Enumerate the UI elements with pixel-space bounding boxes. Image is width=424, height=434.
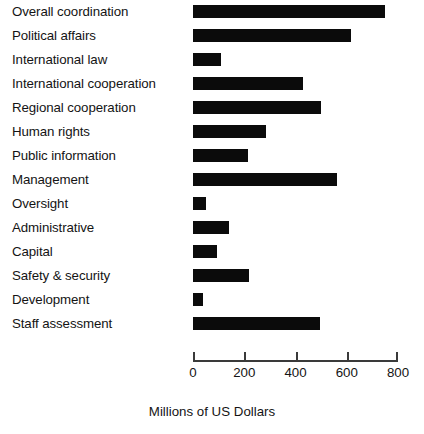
x-axis — [193, 352, 398, 363]
bar-category-label: Public information — [12, 144, 116, 168]
bar-category-label: Staff assessment — [12, 312, 112, 336]
chart-row: Human rights — [0, 120, 424, 144]
chart-row: Administrative — [0, 216, 424, 240]
bar-category-label: Regional cooperation — [12, 96, 136, 120]
chart-row: International cooperation — [0, 72, 424, 96]
chart-row: Capital — [0, 240, 424, 264]
x-axis-tick-label: 0 — [189, 364, 196, 381]
chart-row: Development — [0, 288, 424, 312]
chart-row: Political affairs — [0, 24, 424, 48]
bar-track — [193, 120, 398, 144]
x-axis-tick — [193, 352, 195, 362]
bar — [193, 317, 320, 330]
x-axis-tick — [244, 352, 246, 362]
chart-row: Overall coordination — [0, 0, 424, 24]
chart-rows: Overall coordinationPolitical affairsInt… — [0, 0, 424, 336]
bar-track — [193, 72, 398, 96]
x-axis-tick-label: 200 — [233, 364, 255, 381]
bar-track — [193, 264, 398, 288]
bar-category-label: Development — [12, 288, 89, 312]
bar — [193, 29, 351, 42]
bar-track — [193, 168, 398, 192]
bar-category-label: Administrative — [12, 216, 94, 240]
bar-track — [193, 96, 398, 120]
bar-track — [193, 216, 398, 240]
bar — [193, 173, 337, 186]
x-axis-tick-labels: 0200400600800 — [193, 364, 398, 384]
bar-category-label: International cooperation — [12, 72, 156, 96]
bar — [193, 5, 385, 18]
x-axis-title: Millions of US Dollars — [0, 404, 424, 419]
chart-row: Public information — [0, 144, 424, 168]
bar — [193, 221, 229, 234]
x-axis-tick-label: 800 — [387, 364, 409, 381]
bar-category-label: Human rights — [12, 120, 90, 144]
chart-row: Management — [0, 168, 424, 192]
x-axis-tick-label: 600 — [336, 364, 358, 381]
bar — [193, 197, 206, 210]
x-axis-tick — [396, 352, 398, 362]
bar-category-label: International law — [12, 48, 107, 72]
bar-track — [193, 240, 398, 264]
bar-category-label: Safety & security — [12, 264, 110, 288]
bar — [193, 245, 217, 258]
bar-track — [193, 24, 398, 48]
bar-track — [193, 0, 398, 24]
bar-track — [193, 312, 398, 336]
bar-track — [193, 144, 398, 168]
bar-category-label: Management — [12, 168, 89, 192]
bar-category-label: Political affairs — [12, 24, 96, 48]
x-axis-tick — [347, 352, 349, 362]
bar-category-label: Capital — [12, 240, 53, 264]
bar — [193, 77, 303, 90]
chart-row: Safety & security — [0, 264, 424, 288]
x-axis-tick-label: 400 — [284, 364, 306, 381]
chart-row: Regional cooperation — [0, 96, 424, 120]
bar — [193, 269, 249, 282]
bar-track — [193, 48, 398, 72]
bar — [193, 101, 321, 114]
bar — [193, 53, 221, 66]
bar — [193, 149, 248, 162]
bar-track — [193, 192, 398, 216]
chart-row: International law — [0, 48, 424, 72]
bar — [193, 293, 203, 306]
bar-category-label: Oversight — [12, 192, 68, 216]
chart-row: Oversight — [0, 192, 424, 216]
chart-row: Staff assessment — [0, 312, 424, 336]
bar-chart: Overall coordinationPolitical affairsInt… — [0, 0, 424, 434]
bar — [193, 125, 266, 138]
bar-category-label: Overall coordination — [12, 0, 128, 24]
bar-track — [193, 288, 398, 312]
x-axis-tick — [296, 352, 298, 362]
